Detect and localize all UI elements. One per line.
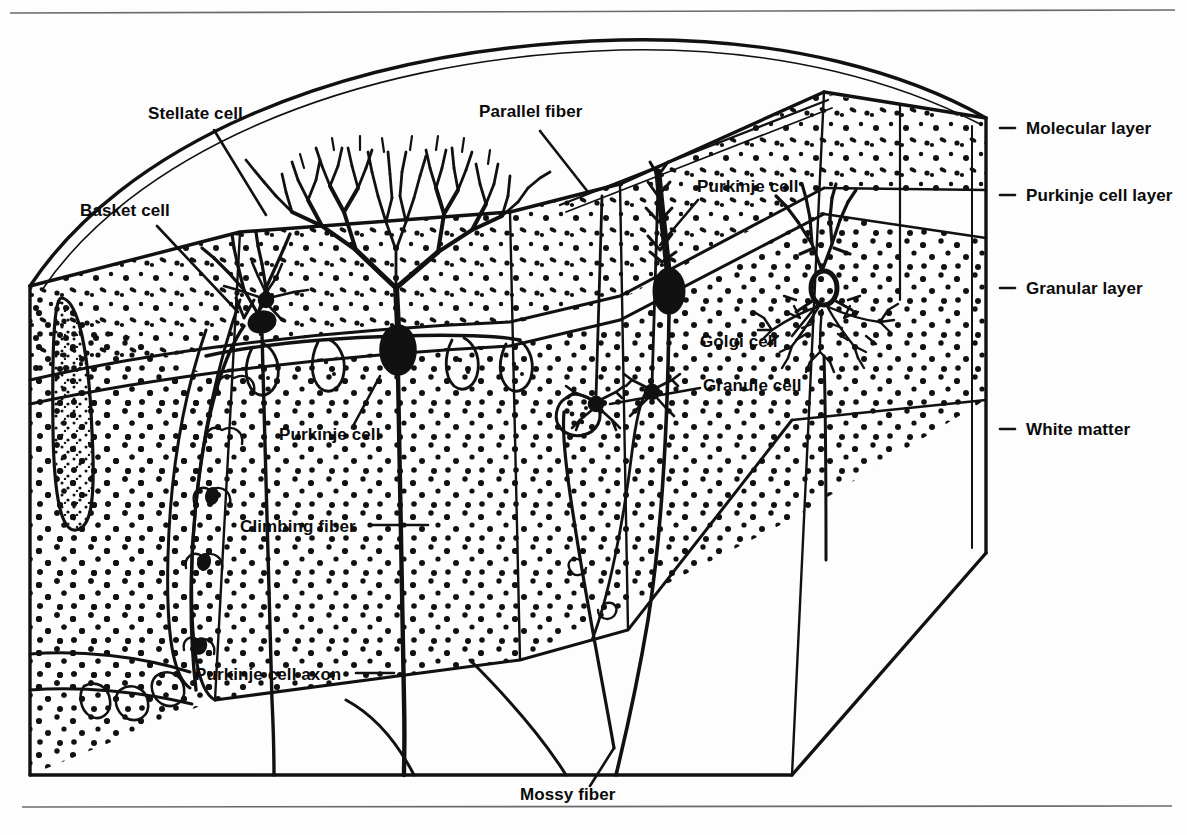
- label-stellate-cell: Stellate cell: [148, 104, 243, 123]
- purkinje-soma-edge: [654, 269, 684, 313]
- leader-mossy-fiber: [590, 748, 614, 786]
- purkinje-soma: [381, 326, 415, 374]
- label-purkinje-cell-left: Purkinje cell: [279, 425, 380, 444]
- figure-page: Stellate cell Basket cell Parallel fiber…: [0, 0, 1187, 835]
- label-purkinje-cell-right: Purkinje cell: [697, 177, 798, 196]
- layer-tick-marks: [1000, 128, 1015, 429]
- stellate-soma: [259, 293, 273, 307]
- label-mossy-fiber: Mossy fiber: [520, 785, 616, 804]
- label-golgi-cell: Golgi cell: [700, 332, 778, 351]
- label-basket-cell: Basket cell: [80, 201, 170, 220]
- block-bottom-receding: [792, 553, 986, 775]
- bottom-rule: [22, 806, 1172, 807]
- leader-stellate-cell: [214, 130, 266, 215]
- label-parallel-fiber: Parallel fiber: [479, 102, 583, 121]
- label-granule-cell: Granule cell: [703, 376, 802, 395]
- label-granular-layer: Granular layer: [1026, 279, 1143, 298]
- label-purkinje-cell-axon: Purkinje cell axon: [195, 665, 341, 684]
- top-rule: [10, 10, 1175, 13]
- label-purkinje-cell-layer: Purkinje cell layer: [1026, 186, 1173, 205]
- cerebellar-cortex-diagram: Stellate cell Basket cell Parallel fiber…: [0, 0, 1187, 835]
- leader-parallel-fiber: [540, 131, 588, 192]
- label-molecular-layer: Molecular layer: [1026, 119, 1152, 138]
- golgi-axon: [824, 356, 826, 560]
- purkinje-primary-dendrite: [396, 286, 398, 328]
- label-climbing-fiber: Climbing fiber: [240, 517, 356, 536]
- label-white-matter: White matter: [1026, 420, 1130, 439]
